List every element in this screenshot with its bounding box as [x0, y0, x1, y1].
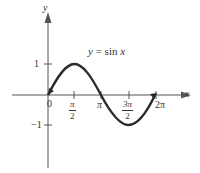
chart-canvas	[0, 0, 200, 173]
chart-title: y = sin x	[88, 46, 125, 57]
y-tick-label-1: 1	[34, 59, 39, 69]
x-tick-label-0: 0	[47, 99, 52, 109]
x-tick-label-half-pi: π 2	[69, 100, 76, 121]
y-axis-arrow-icon	[45, 12, 52, 23]
x-tick-label-pi: π	[97, 100, 102, 110]
x-axis-label: x	[185, 89, 189, 99]
x-tick-label-three-half-pi: 3π 2	[122, 100, 133, 121]
x-tick-label-2pi: 2π	[155, 100, 165, 110]
y-axis-label: y	[43, 3, 47, 13]
y-tick-label-neg1: −1	[31, 120, 42, 130]
